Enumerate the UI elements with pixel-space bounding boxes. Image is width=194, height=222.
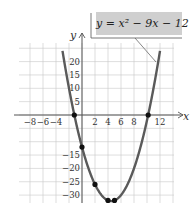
svg-text:5: 5: [75, 97, 80, 107]
svg-text:6: 6: [118, 117, 123, 127]
svg-text:12: 12: [155, 117, 166, 127]
marked-points: [72, 112, 151, 203]
equation-label: y = x² − 9x − 12: [96, 12, 182, 35]
data-point: [72, 112, 77, 117]
data-point: [105, 198, 110, 203]
svg-text:−30: −30: [62, 190, 80, 200]
x-axis-label: x: [183, 110, 190, 123]
svg-text:8: 8: [131, 117, 136, 127]
data-point: [146, 112, 151, 117]
label-leader-line: [135, 38, 156, 62]
svg-text:15: 15: [69, 70, 80, 80]
data-point: [92, 182, 97, 187]
svg-text:−15: −15: [62, 150, 80, 160]
data-point: [79, 144, 84, 149]
data-point: [112, 198, 117, 203]
svg-text:−6: −6: [37, 117, 50, 127]
svg-text:4: 4: [105, 117, 110, 127]
svg-text:2: 2: [92, 117, 97, 127]
y-axis-label: y: [69, 29, 77, 42]
svg-text:−20: −20: [62, 163, 80, 173]
svg-text:−8: −8: [24, 117, 37, 127]
svg-text:20: 20: [69, 57, 80, 67]
svg-text:−4: −4: [50, 117, 63, 127]
svg-text:−25: −25: [62, 177, 80, 187]
